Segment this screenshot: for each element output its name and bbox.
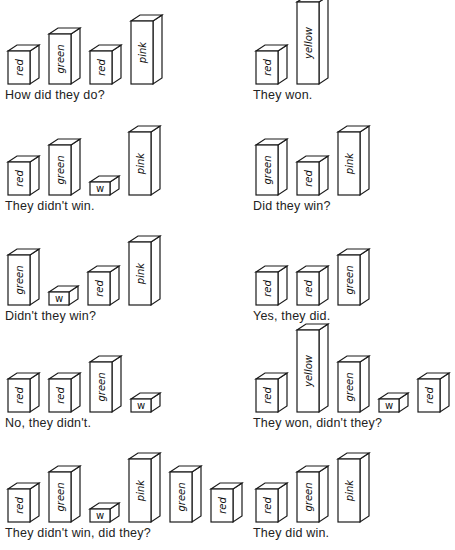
block-red: red (8, 483, 39, 522)
caption: They didn't win, did they? (5, 526, 151, 540)
block-label: pink (344, 479, 355, 502)
block-label: green (176, 482, 187, 511)
block-label: red (217, 497, 228, 514)
block-green: green (297, 466, 328, 522)
block-label: pink (135, 479, 146, 502)
block-label: green (55, 482, 66, 511)
block-green: green (170, 466, 201, 522)
block-pink: pink (338, 453, 369, 522)
block-green: green (49, 466, 80, 522)
block-red: red (211, 483, 242, 522)
block-pink: pink (129, 453, 160, 522)
block-red: red (256, 483, 287, 522)
block-label: red (262, 497, 273, 514)
block-group: redgreenwpinkgreenred (8, 0, 208, 550)
block-label: green (303, 482, 314, 511)
caption: They did win. (253, 526, 329, 540)
block-label: w (96, 510, 104, 521)
block-group: redgreenpink (256, 0, 455, 550)
block-w: w (90, 503, 119, 522)
block-label: red (14, 497, 25, 514)
